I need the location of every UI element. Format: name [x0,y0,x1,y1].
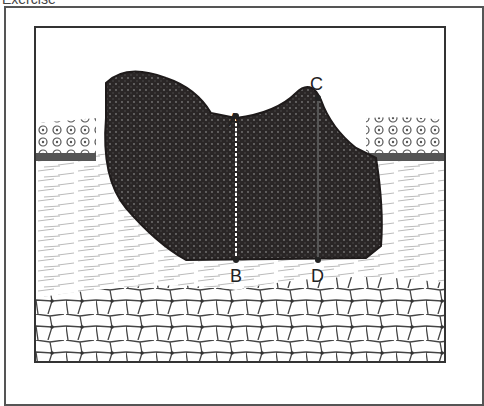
label-b: B [230,266,242,287]
fat-layer [36,277,446,363]
skin-cross-section [36,28,446,363]
epidermis-left [36,118,96,158]
label-a: A [228,110,240,131]
diagram-frame: A B C D [34,26,446,363]
epidermis-right [366,117,446,158]
label-d: D [311,266,324,287]
label-c: C [310,74,323,95]
